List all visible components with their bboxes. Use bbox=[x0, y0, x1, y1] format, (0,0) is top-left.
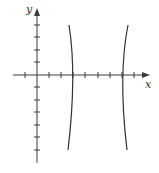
x-axis-label: x bbox=[145, 79, 151, 90]
y-axis-label: y bbox=[26, 4, 32, 15]
hyperbola-diagram: y x bbox=[0, 0, 159, 173]
hyperbola-right-branch bbox=[123, 25, 128, 150]
coordinate-plane bbox=[0, 0, 159, 173]
y-axis-arrow-icon bbox=[34, 8, 40, 16]
hyperbola-left-branch bbox=[68, 25, 73, 150]
